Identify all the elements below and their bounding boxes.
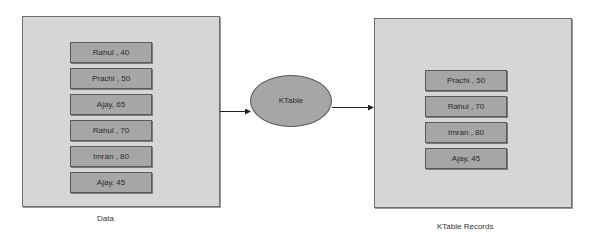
ktable-record: Imran , 80 [425, 122, 507, 143]
ktable-record: Ajay, 45 [425, 148, 507, 169]
ktable-records-caption: KTable Records [437, 222, 493, 231]
ktable-record: Prachi , 50 [425, 70, 507, 91]
ktable-record: Rahul , 70 [425, 96, 507, 117]
